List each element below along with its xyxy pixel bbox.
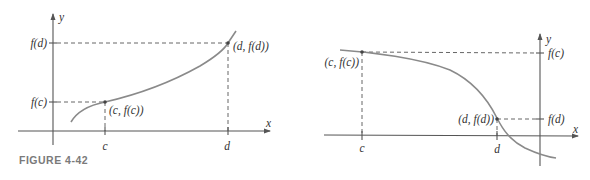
- right-point-d-label: (d, f(d)): [458, 113, 494, 126]
- left-graph: x y f(d) f(c) c d (c, f(c)) (d, f(d)): [18, 11, 272, 152]
- right-label-fd: f(d): [548, 113, 565, 126]
- right-point-d: [495, 117, 499, 121]
- left-label-fc: f(c): [31, 96, 47, 109]
- left-point-d-label: (d, f(d)): [233, 40, 269, 53]
- right-graph: x y f(c) f(d) c d (c, f(c)) (d, f(d)): [324, 33, 579, 166]
- right-dash-fc-horizontal: [362, 52, 536, 53]
- figure-caption: FIGURE 4-42: [19, 154, 88, 166]
- left-point-c: [103, 100, 107, 104]
- right-y-axis-label: y: [545, 33, 552, 46]
- left-point-c-label: (c, f(c)): [109, 104, 144, 117]
- right-label-c: c: [359, 142, 364, 154]
- left-label-c: c: [102, 140, 107, 152]
- right-label-fc: f(c): [548, 47, 564, 60]
- right-label-d: d: [494, 143, 500, 155]
- left-increasing-curve: [71, 31, 236, 122]
- left-x-axis-label: x: [265, 117, 272, 129]
- left-label-fd: f(d): [30, 37, 47, 50]
- left-point-d: [226, 41, 230, 45]
- figure-canvas: x y f(d) f(c) c d (c, f(c)) (d, f(d)) FI…: [0, 0, 590, 180]
- left-y-axis-label: y: [58, 11, 65, 24]
- right-x-axis-label: x: [572, 123, 579, 135]
- right-point-c-label: (c, f(c)): [325, 56, 360, 69]
- right-decreasing-curve: [340, 50, 556, 158]
- left-label-d: d: [224, 140, 230, 152]
- right-point-c: [360, 50, 364, 54]
